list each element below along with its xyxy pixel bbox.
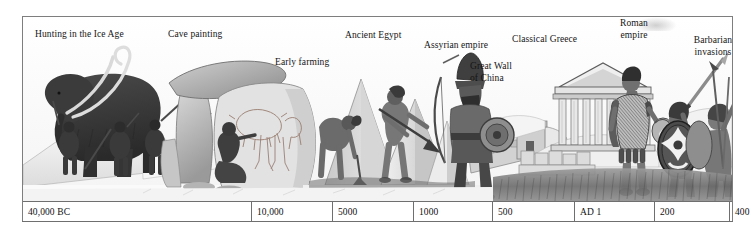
caption-early-farming: Early farming	[275, 57, 355, 69]
axis-label: 200	[655, 207, 675, 217]
caption-cave-painting: Cave painting	[168, 29, 258, 41]
caption-classical-greece: Classical Greece	[512, 34, 606, 46]
axis-label: 400	[730, 207, 750, 217]
axis-label: AD 1	[575, 207, 601, 217]
timeline-date-axis: 40,000 BC10,00050001000500AD 1200400	[23, 201, 732, 221]
caption-great-wall-china: Great Wall of China	[470, 61, 534, 84]
scene-artwork	[23, 17, 732, 201]
caption-ancient-egypt: Ancient Egypt	[345, 30, 433, 42]
axis-cell-1000: 1000	[414, 202, 493, 221]
axis-label: 5000	[333, 207, 357, 217]
axis-cell-500: 500	[493, 202, 575, 221]
caption-roman-empire: Roman empire	[608, 18, 660, 41]
caption-assyrian-empire: Assyrian empire	[424, 40, 516, 52]
axis-cell-ad-1: AD 1	[575, 202, 655, 221]
caption-barbarian-invasions: Barbarian invasions	[682, 35, 744, 58]
historical-timeline-figure: Hunting in the Ice Age Cave painting Ear…	[0, 0, 755, 236]
axis-label: 500	[493, 207, 513, 217]
axis-cell-10-000: 10,000	[252, 202, 333, 221]
axis-label: 1000	[414, 207, 438, 217]
axis-cell-40-000-bc: 40,000 BC	[23, 202, 252, 221]
caption-hunting-ice-age: Hunting in the Ice Age	[35, 29, 165, 41]
axis-cell-5000: 5000	[333, 202, 414, 221]
axis-cell-400: 400	[730, 202, 732, 221]
axis-label: 10,000	[252, 207, 284, 217]
illustration-scene	[23, 17, 732, 201]
axis-bottom-rule	[22, 221, 733, 222]
axis-cell-200: 200	[655, 202, 730, 221]
axis-label: 40,000 BC	[23, 207, 70, 217]
